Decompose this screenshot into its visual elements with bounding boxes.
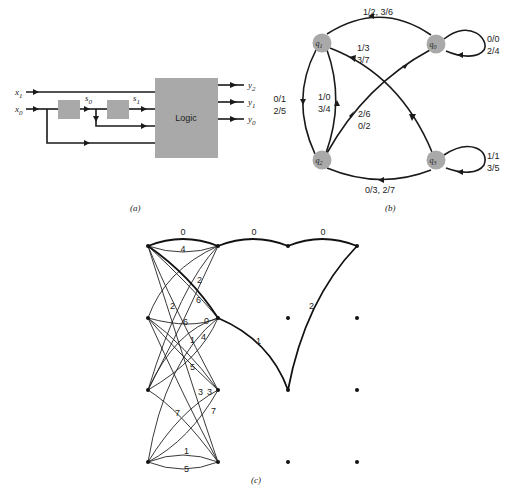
- state-node-q3: q3: [427, 151, 446, 170]
- transition-label-q1-q2-a: 0/1: [273, 94, 286, 104]
- trellis-edge: [148, 318, 218, 390]
- trellis-node: [216, 388, 220, 392]
- trellis-node: [216, 244, 220, 248]
- delay-block-2: [107, 100, 129, 119]
- arrow-icon: [300, 99, 306, 105]
- transition-label-q3-q3-a: 1/1: [487, 151, 500, 161]
- trellis-edge: [148, 390, 218, 462]
- trellis-node: [286, 460, 290, 464]
- trellis-node: [146, 244, 150, 248]
- trellis-edge: [148, 246, 218, 462]
- survivor-path: [218, 239, 288, 246]
- arrow-icon: [349, 55, 356, 62]
- trellis-label: 5: [184, 464, 189, 474]
- transition-q2-q0: [327, 50, 430, 153]
- figure-canvas: x1 x0 s0 s1 Logic y: [0, 0, 509, 493]
- trellis-label: 1: [184, 446, 189, 456]
- arrow-icon: [230, 99, 237, 105]
- arrow-icon: [457, 52, 463, 58]
- transition-label-q1-q3-a: 1/3: [357, 43, 370, 53]
- trellis-node: [286, 316, 290, 320]
- transition-label-q3-q3-b: 3/5: [487, 163, 500, 173]
- trellis-label: 4: [201, 332, 206, 342]
- delay-block-1: [58, 100, 80, 119]
- trellis-label: 7: [175, 408, 180, 418]
- transition-q3-q3: [444, 147, 485, 172]
- arrow-icon: [457, 169, 463, 175]
- panel-a-circuit: x1 x0 s0 s1 Logic y: [14, 78, 256, 213]
- transition-q0-q1: [327, 17, 431, 35]
- survivor-path: [288, 239, 357, 246]
- trellis-nodes: [146, 244, 359, 464]
- caption-a: (a): [130, 203, 141, 213]
- transition-label-q0-q0-b: 2/4: [487, 46, 500, 56]
- survivor-path: [288, 246, 357, 390]
- trellis-edge: [148, 390, 218, 462]
- trellis-node: [355, 244, 359, 248]
- arrow-icon: [378, 177, 384, 183]
- input-label-x0: x0: [14, 104, 23, 117]
- trellis-label: 2: [197, 275, 202, 285]
- state-label-s0: s0: [85, 93, 93, 106]
- state-node-q1: q1: [313, 34, 332, 53]
- arrow-icon: [84, 140, 90, 146]
- transition-q3-q2: [327, 168, 431, 180]
- trellis-node: [286, 244, 290, 248]
- trellis-label: 1: [190, 335, 195, 345]
- trellis-node: [355, 388, 359, 392]
- state-node-q0: q0: [427, 35, 446, 54]
- panel-b-state-diagram: 1/2, 3/6 0/0 2/4 1/3 3/7 0/1 2/5 1/0 3/4…: [273, 7, 499, 213]
- caption-c: (c): [251, 475, 261, 485]
- trellis-node: [146, 316, 150, 320]
- survivor-path: [148, 246, 218, 318]
- trellis-label: 0: [251, 227, 256, 237]
- trellis-edge: [148, 318, 218, 390]
- trellis-label: 2: [309, 301, 314, 311]
- transition-label-q2-q1-a: 1/0: [318, 92, 331, 102]
- transition-label-q0-q0-a: 0/0: [487, 34, 500, 44]
- arrow-icon: [141, 123, 147, 129]
- arrow-icon: [230, 116, 237, 122]
- transition-q1-q2: [303, 50, 316, 154]
- trellis-edge: [148, 246, 218, 318]
- arrow-icon: [334, 100, 340, 106]
- input-label-x1: x1: [14, 87, 23, 100]
- trellis-label: 5: [190, 362, 195, 372]
- output-label-y0: y0: [247, 114, 256, 127]
- trellis-label: 0: [180, 227, 185, 237]
- state-label-s1: s1: [133, 93, 140, 106]
- transition-label-q2-q0-b: 0/2: [358, 121, 371, 131]
- logic-label: Logic: [175, 113, 197, 123]
- arrow-icon: [33, 106, 39, 112]
- trellis-node: [146, 460, 150, 464]
- trellis-node: [216, 316, 220, 320]
- arrow-icon: [230, 82, 237, 88]
- trellis-label: 6: [196, 295, 201, 305]
- transition-label-q0-q1: 1/2, 3/6: [363, 7, 393, 17]
- arrow-icon: [33, 89, 39, 95]
- trellis-node: [355, 316, 359, 320]
- arrow-icon: [84, 106, 90, 112]
- trellis-label: 3: [198, 387, 203, 397]
- trellis-node: [286, 388, 290, 392]
- trellis-node: [355, 460, 359, 464]
- transition-q1-q3: [330, 48, 432, 152]
- arrow-icon: [93, 116, 99, 122]
- transition-q0-q0: [444, 30, 485, 56]
- transition-label-q2-q1-b: 3/4: [318, 104, 331, 114]
- trellis-label: 2: [170, 301, 175, 311]
- trellis-edge: [148, 318, 218, 390]
- trellis-label: 7: [211, 406, 216, 416]
- transition-label-q1-q3-b: 3/7: [357, 55, 370, 65]
- output-label-y1: y1: [247, 97, 256, 110]
- trellis-label: 4: [180, 244, 185, 254]
- state-node-q2: q2: [313, 151, 332, 170]
- survivor-path: [218, 318, 288, 390]
- trellis-label: 6: [183, 317, 188, 327]
- trellis-edge: [148, 318, 218, 390]
- output-label-y2: y2: [247, 80, 256, 93]
- transition-label-q1-q2-b: 2/5: [273, 106, 286, 116]
- caption-b: (b): [385, 203, 396, 213]
- trellis-label: 1: [256, 336, 261, 346]
- trellis-edge: [148, 246, 218, 318]
